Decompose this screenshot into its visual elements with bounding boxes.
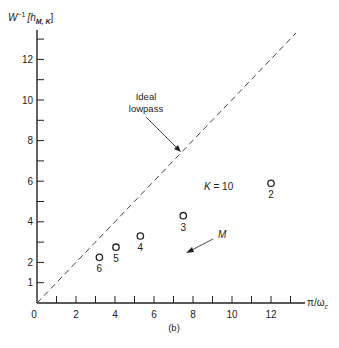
open-circle-marker: [113, 244, 119, 250]
open-circle-marker: [180, 213, 186, 219]
panel-label: (b): [168, 322, 180, 333]
y-tick-label: 4: [27, 216, 33, 227]
x-axis-title: π/ωc: [307, 297, 329, 310]
axes: [37, 30, 305, 303]
y-tick-label: 8: [27, 135, 33, 146]
data-point: 6: [96, 254, 102, 274]
open-circle-marker: [137, 233, 143, 239]
point-label: 3: [180, 222, 186, 233]
point-label: 4: [138, 242, 144, 253]
x-tick-label: 2: [73, 309, 79, 320]
ideal-lowpass-arrow-icon: [146, 117, 181, 152]
point-label: 2: [268, 189, 274, 200]
x-tick-label: 0: [31, 309, 37, 320]
x-tick-label: 4: [112, 309, 118, 320]
y-tick-label: 10: [22, 95, 34, 106]
y-tick-label: 12: [22, 54, 34, 65]
chart-figure: W−1[hM, K] 124681012 024681012 π/ωc Idea…: [0, 0, 339, 348]
x-ticks: 024681012: [31, 296, 290, 320]
ideal-lowpass-line: [37, 33, 296, 303]
data-point: 5: [113, 244, 119, 264]
open-circle-marker: [268, 180, 274, 186]
y-tick-label: 6: [27, 176, 33, 187]
data-point: 3: [180, 213, 186, 233]
ideal-lowpass-label-line2: lowpass: [129, 103, 164, 114]
data-point: 2: [268, 180, 274, 200]
y-tick-label: 1: [27, 277, 33, 288]
x-tick-label: 8: [190, 309, 196, 320]
x-tick-label: 12: [265, 309, 277, 320]
point-label: 6: [97, 263, 103, 274]
x-tick-label: 10: [226, 309, 238, 320]
open-circle-marker: [96, 254, 102, 260]
y-ticks: 124681012: [22, 39, 44, 288]
data-points: 23456: [96, 180, 274, 274]
m-arrow-icon: [186, 239, 213, 253]
point-label: 5: [113, 253, 119, 264]
m-annotation: M: [218, 229, 227, 240]
x-tick-label: 6: [151, 309, 157, 320]
y-axis-title: W−1[hM, K]: [8, 11, 54, 26]
data-point: 4: [137, 233, 143, 253]
ideal-lowpass-label-line1: Ideal: [136, 91, 157, 102]
y-tick-label: 2: [27, 257, 33, 268]
k-annotation: K = 10: [204, 181, 234, 192]
